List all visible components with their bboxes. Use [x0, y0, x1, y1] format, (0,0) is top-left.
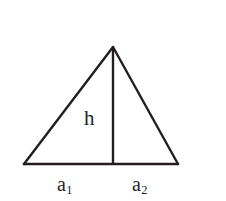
- base-segment-right-label: a2: [132, 174, 147, 194]
- triangle-right-side: [113, 47, 178, 164]
- base-segment-right-subscript: 2: [141, 183, 147, 197]
- triangle-diagram: h a1 a2: [0, 0, 226, 201]
- base-segment-left-label: a1: [57, 174, 72, 194]
- triangle-left-side: [24, 47, 113, 164]
- height-label: h: [84, 108, 95, 129]
- base-segment-left-subscript: 1: [66, 183, 72, 197]
- triangle-figure: [0, 0, 226, 201]
